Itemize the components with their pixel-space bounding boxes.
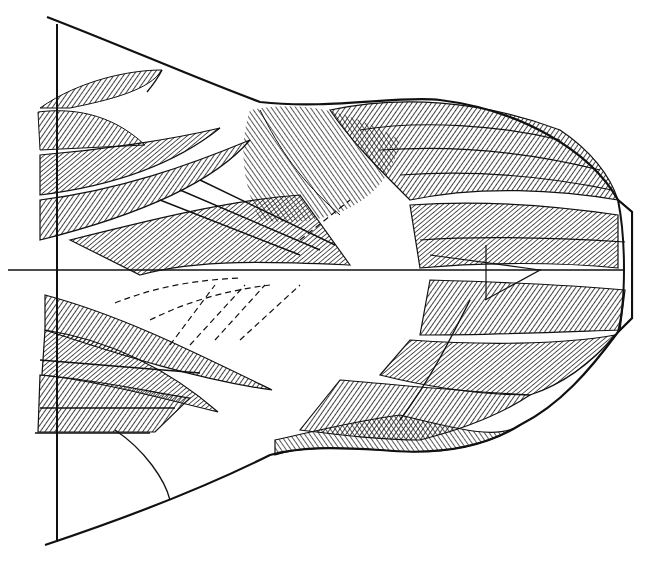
lower-primary-feathers xyxy=(35,295,272,500)
construction-lines xyxy=(8,24,630,542)
wing-outline xyxy=(45,17,632,545)
right-lower-feathers xyxy=(275,280,625,455)
illustration-canvas xyxy=(0,0,653,564)
wing-drawing xyxy=(0,0,653,564)
